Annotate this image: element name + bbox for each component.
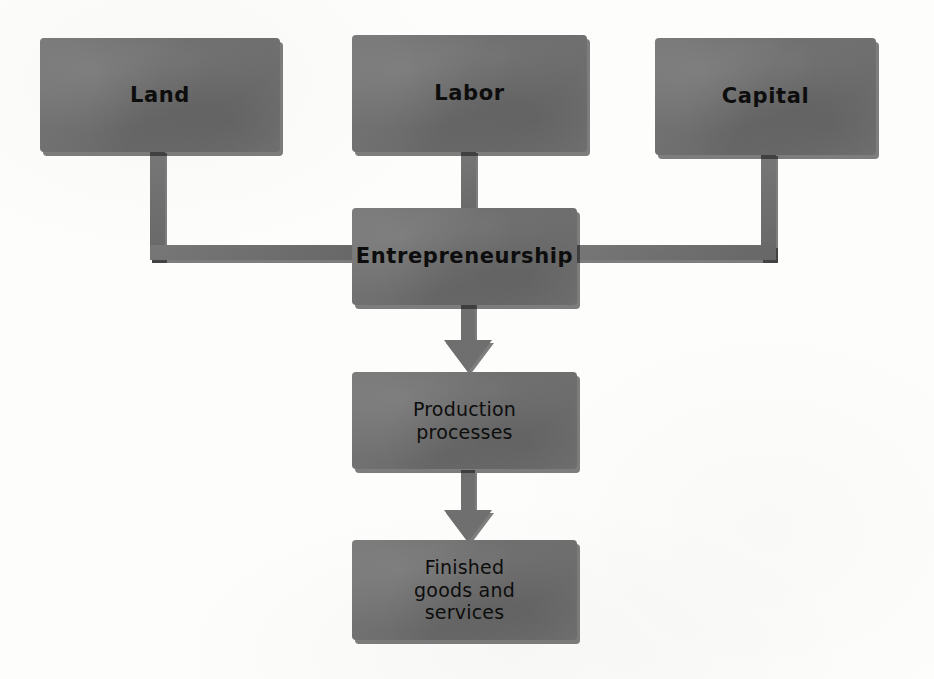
node-finished-goods-services-label: Finished goods and services <box>414 556 515 623</box>
node-land-label: Land <box>130 83 190 108</box>
connector-capital-horizontal <box>570 245 776 260</box>
node-production-processes[interactable]: Production processes <box>352 372 577 469</box>
node-capital[interactable]: Capital <box>655 38 876 155</box>
node-finished-line-3: services <box>425 601 505 623</box>
node-labor-label: Labor <box>434 81 504 106</box>
node-production-line-2: processes <box>416 421 512 443</box>
node-labor[interactable]: Labor <box>352 35 587 152</box>
connector-land-horizontal <box>150 245 365 260</box>
node-finished-goods-services[interactable]: Finished goods and services <box>352 540 577 640</box>
node-production-line-1: Production <box>413 398 516 420</box>
arrow-production-to-finished <box>440 470 496 546</box>
node-entrepreneurship-label: Entrepreneurship <box>356 244 573 269</box>
node-production-processes-label: Production processes <box>413 398 516 443</box>
node-entrepreneurship[interactable]: Entrepreneurship <box>352 208 577 305</box>
arrow-entrepreneurship-to-production <box>440 300 496 376</box>
connector-land-vertical <box>150 150 165 260</box>
node-finished-line-1: Finished <box>425 556 504 578</box>
node-finished-line-2: goods and <box>414 579 515 601</box>
node-land[interactable]: Land <box>40 38 280 152</box>
node-capital-label: Capital <box>722 84 809 109</box>
diagram-canvas: Land Labor Capital Entrepreneurship Prod… <box>0 0 934 679</box>
connector-capital-vertical <box>761 153 776 260</box>
